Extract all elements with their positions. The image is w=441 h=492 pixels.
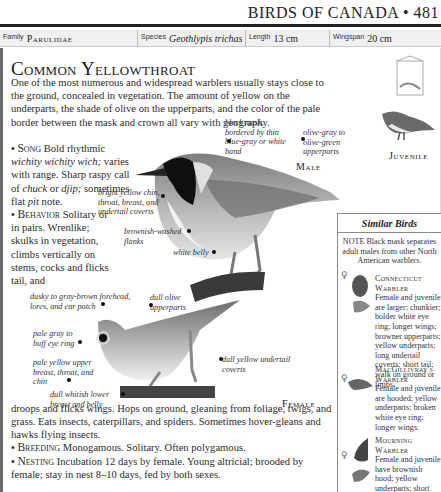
- nesting-heading: Nesting: [17, 455, 54, 467]
- leader-dot: [212, 250, 216, 254]
- leader-dot: [67, 378, 71, 382]
- song-text: note.: [39, 196, 63, 207]
- leader-dot: [301, 137, 305, 141]
- similar-bird-text: Female and juvenile are hooded; yellow u…: [375, 384, 441, 431]
- male-label: Male: [296, 161, 321, 172]
- connecticut-warbler-illustration: [348, 272, 372, 322]
- annotation-upperparts: olive-gray to olive-green upperparts: [303, 128, 365, 157]
- annotation-black-mask: black mask, bordered by thin blue-gray o…: [225, 118, 289, 156]
- similar-birds-heading: Similar Birds: [338, 214, 441, 233]
- nesting-paragraph: • Nesting Incubation 12 days by female. …: [11, 455, 333, 481]
- behavior-text: Solitary or in pairs. Wrenlike; skulks i…: [11, 209, 109, 286]
- annotation-white-belly: white belly: [173, 248, 213, 258]
- female-symbol-icon: ♀: [341, 270, 348, 280]
- behavior-paragraph: • Behavior Solitary or in pairs. Wrenlik…: [11, 208, 115, 287]
- annotation-eye-ring: pale gray to buff eye ring: [33, 329, 81, 348]
- annotation-flanks: brownish-washed flanks: [124, 227, 186, 246]
- leader-dot: [219, 357, 223, 361]
- page-edge-border: [0, 48, 3, 492]
- page-title: BIRDS OF CANADA • 481: [248, 4, 439, 22]
- species-label: Species: [141, 33, 166, 40]
- mourning-warbler-illustration: [348, 436, 374, 492]
- species-value: Geothlypis trichas: [169, 33, 243, 44]
- length-label: Length: [249, 33, 270, 40]
- annotation-forehead: dusky to gray-brown forehead, lores, and…: [30, 292, 140, 311]
- breeding-paragraph: • Breeding Monogamous. Solitary. Often p…: [11, 441, 333, 454]
- nesting-text: Incubation 12 days by female. Young altr…: [11, 456, 303, 480]
- female-bird-illustration: [80, 300, 250, 400]
- annotation-female-upperparts: dull olive upperparts: [150, 293, 200, 312]
- wingspan-cell: Wingspan 20 cm: [330, 30, 441, 47]
- female-label: Female: [282, 398, 315, 409]
- wingspan-value: 20 cm: [367, 33, 392, 44]
- similar-birds-note: NOTE Black mask separates adult males fr…: [338, 233, 441, 266]
- family-value: Parulidae: [27, 33, 73, 44]
- similar-bird-name: Mourning Warbler: [375, 436, 412, 455]
- song-call: chuck: [22, 183, 47, 194]
- similar-birds-panel: Similar Birds NOTE Black mask separates …: [337, 213, 441, 492]
- annotation-yellow-chin: bright yellow chin, throat, breast, and …: [98, 188, 168, 217]
- info-bar: Family Parulidae Species Geothlypis tric…: [0, 30, 441, 47]
- juvenile-label: Juvenile: [389, 150, 428, 161]
- leader-dot: [227, 139, 231, 143]
- song-call: djip;: [61, 183, 81, 194]
- range-map-icon: [396, 55, 426, 97]
- leader-dot: [187, 229, 191, 233]
- female-symbol-icon: ♀: [341, 450, 348, 460]
- song-heading: Song: [17, 142, 41, 154]
- similar-entry-macgillivrays: MacGillivray's Warbler Female and juveni…: [375, 365, 441, 432]
- leader-dot: [101, 302, 105, 306]
- bullet-icon: •: [11, 456, 15, 467]
- bullet-icon: •: [11, 143, 15, 154]
- length-value: 13 cm: [273, 33, 298, 44]
- bullet-icon: •: [11, 442, 15, 453]
- song-call: wichity wichity wich;: [11, 156, 101, 167]
- family-label: Family: [3, 33, 24, 40]
- juvenile-bird-illustration: [380, 108, 436, 142]
- bullet-icon: •: [11, 209, 15, 220]
- annotation-upper-breast: pale yellow upper breast, throat, and ch…: [33, 358, 95, 387]
- header-rule: [0, 24, 441, 27]
- similar-bird-text: Female and juvenile have brownish hood; …: [375, 455, 441, 492]
- length-cell: Length 13 cm: [246, 30, 330, 47]
- similar-bird-name: MacGillivray's Warbler: [375, 365, 433, 384]
- family-cell: Family Parulidae: [0, 30, 138, 47]
- leader-dot: [78, 340, 82, 344]
- macgillivrays-warbler-illustration: [346, 374, 374, 398]
- similar-bird-name: Connecticut Warbler: [375, 274, 422, 293]
- behavior-heading: Behavior: [17, 208, 60, 220]
- breeding-heading: Breeding: [17, 441, 60, 453]
- leader-dot: [161, 194, 165, 198]
- song-call: pit: [28, 196, 39, 207]
- leader-dot: [121, 392, 125, 396]
- wingspan-label: Wingspan: [333, 33, 364, 40]
- annotation-lower-breast: dull whitish lower breast and belly: [50, 390, 122, 409]
- song-text: or: [47, 183, 61, 194]
- song-text: Bold rhythmic: [41, 143, 105, 154]
- species-cell: Species Geothlypis trichas: [138, 30, 246, 47]
- annotation-undertail: dull yellow undertail coverts: [222, 355, 292, 374]
- leader-dot: [149, 303, 153, 307]
- breeding-text: Monogamous. Solitary. Often polygamous.: [60, 442, 246, 453]
- similar-entry-mourning: Mourning Warbler Female and juvenile hav…: [375, 436, 441, 492]
